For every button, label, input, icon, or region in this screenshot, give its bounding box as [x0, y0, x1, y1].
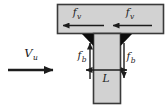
length-label-base: L [103, 72, 110, 84]
fv-left-label: fv [73, 7, 82, 21]
vu-label-base: V [24, 46, 32, 60]
fb-left-label: fb [77, 50, 86, 64]
fb-right-label: fb [126, 51, 135, 65]
vu-label-sub: u [33, 53, 38, 62]
fv-left-label-sub: v [77, 12, 81, 21]
fb-right-label-sub: b [131, 56, 136, 65]
fv-right-label: fv [126, 7, 135, 21]
t-joint-weld-diagram: Vu fv fv fb fb L [0, 0, 167, 109]
vu-label: Vu [24, 48, 38, 62]
length-label: L [103, 73, 110, 84]
fb-left-label-sub: b [82, 55, 87, 64]
stem-member [94, 34, 121, 104]
fv-right-label-sub: v [130, 12, 134, 21]
